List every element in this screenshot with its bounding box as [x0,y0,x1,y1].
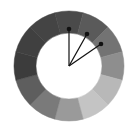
pointer-line-2 [69,44,101,66]
pointer-dot-2 [99,42,104,47]
pointer-dot-1 [85,32,90,37]
pointer-line-1 [69,34,87,66]
segmented-ring-diagram [0,0,138,132]
pointer-dot-0 [67,27,72,32]
